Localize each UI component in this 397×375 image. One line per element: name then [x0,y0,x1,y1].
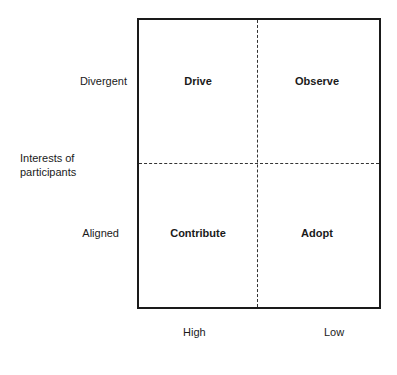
quadrant-contribute: Contribute [139,227,257,239]
y-axis-title: Interests of participants [20,151,76,179]
y-label-divergent: Divergent [80,75,127,87]
x-label-high: High [183,326,206,338]
y-axis-title-line-2: participants [20,165,76,179]
x-label-low: Low [324,326,344,338]
horizontal-divider [139,163,379,164]
quadrant-adopt: Adopt [258,227,376,239]
quadrant-drive: Drive [139,75,257,87]
y-axis-title-line-1: Interests of [20,151,76,165]
quadrant-observe: Observe [258,75,376,87]
y-label-aligned: Aligned [82,227,119,239]
